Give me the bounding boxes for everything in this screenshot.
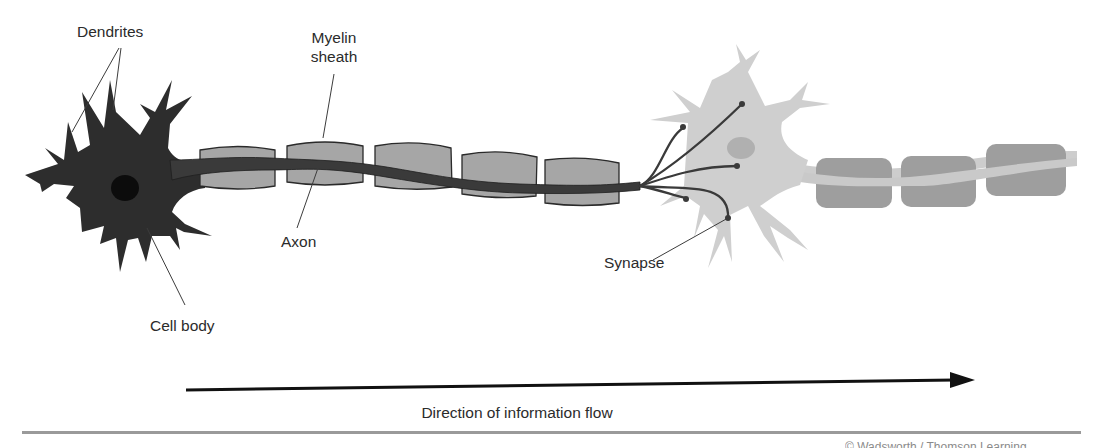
label-dendrites: Dendrites [77,22,143,41]
leader-myelin [323,74,334,138]
label-cell-body: Cell body [150,316,215,335]
label-axon: Axon [281,232,316,251]
label-myelin-line2: sheath [302,47,366,66]
credit-line: © Wadsworth / Thomson Learning [845,438,1027,448]
presynaptic-nucleus [111,175,139,201]
label-synapse: Synapse [604,253,664,272]
flow-caption: Direction of information flow [0,403,1100,422]
arrowhead-icon [950,372,975,388]
postsynaptic-nucleus [727,137,755,159]
divider-rule [22,431,1081,434]
direction-arrow [186,372,975,390]
postsynaptic-neuron [650,44,1077,268]
neuron-diagram [0,0,1100,448]
label-myelin-line1: Myelin [302,28,366,47]
label-myelin-sheath: Myelin sheath [302,28,366,66]
leader-cell-body [147,228,185,305]
presynaptic-neuron [25,80,745,272]
flow-caption-text: Direction of information flow [421,404,612,421]
